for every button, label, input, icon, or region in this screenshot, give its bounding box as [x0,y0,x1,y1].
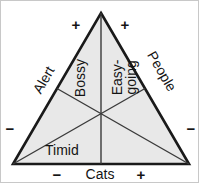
sign-right-minus: − [184,121,198,136]
sign-bottom-right-plus: + [134,167,148,182]
axis-label-cats: Cats [77,167,123,181]
sign-top-right-plus: + [118,17,132,32]
sign-top-left-plus: + [69,17,83,32]
sign-left-minus: − [3,121,17,136]
sign-bottom-left-minus: − [50,167,64,182]
sector-label-timid: Timid [45,143,93,157]
easy-going-line-2: going [123,60,139,94]
ternary-diagram: + + − − − + Cats Alert People Bossy Easy… [0,0,199,183]
sector-label-easy-going: Easy-going [110,52,139,102]
sector-label-bossy: Bossy [73,51,87,97]
